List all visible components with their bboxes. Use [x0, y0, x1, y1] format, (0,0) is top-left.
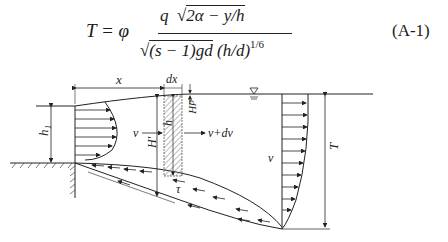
equation-lhs: T = φ [86, 20, 129, 42]
equation-number: (A-1) [392, 21, 430, 41]
fraction-bar [158, 33, 292, 34]
denominator-rest: (h/d) [217, 41, 250, 60]
equation-numerator: q √2α − y/h [160, 6, 245, 26]
label-v-in: v [133, 126, 139, 140]
h1-dimension: h₁ [36, 107, 51, 162]
upstream-velocity-profile [75, 102, 117, 163]
equation-denominator: √(s − 1)gd (h/d)1/6 [140, 38, 264, 61]
dH-dimension: dH [187, 84, 199, 115]
equation-a1: T = φ q √2α − y/h √(s − 1)gd (h/d)1/6 (A… [0, 0, 448, 66]
water-surface [36, 94, 373, 106]
downstream-velocity-profile: v [268, 94, 308, 229]
x-dimension: x [75, 72, 164, 104]
label-h: h [161, 120, 175, 126]
dx-dimension: dx [164, 72, 182, 96]
numerator-q: q [160, 6, 169, 25]
H-prime-dimension: H′ [145, 98, 159, 196]
T-dimension: T [282, 96, 341, 229]
outflow-velocity: v+dv [184, 126, 233, 140]
label-x: x [115, 72, 122, 87]
label-h1: h₁ [36, 125, 51, 136]
denominator-root: (s − 1)gd [149, 40, 212, 60]
label-dH: dH [187, 100, 199, 115]
label-v-out: v [268, 151, 274, 165]
scour-diagram: h₁ x dx dH h H′ v v+dv τ [0, 66, 448, 242]
numerator-root: 2α − y/h [186, 5, 244, 25]
bed-upstream [10, 163, 75, 198]
label-T: T [326, 142, 341, 150]
label-dx: dx [166, 72, 178, 86]
label-tau: τ [176, 182, 181, 196]
denominator-exponent: 1/6 [250, 38, 264, 50]
label-v-plus-dv: v+dv [208, 126, 233, 140]
label-H-prime: H′ [145, 136, 159, 149]
